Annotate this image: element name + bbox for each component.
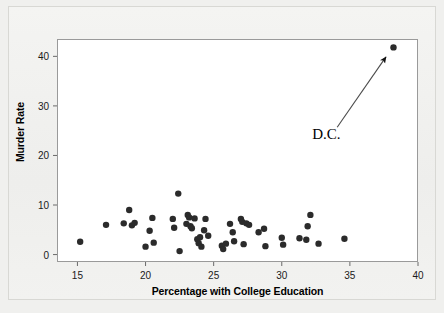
annotation-arrow-line [337,57,386,127]
data-point [261,226,267,232]
data-point [280,241,286,247]
data-point [103,222,109,228]
data-point [146,228,152,234]
data-point [296,235,302,241]
data-point [201,227,207,233]
data-point [189,225,195,231]
tick-marks [53,56,418,266]
data-point [142,243,148,249]
annotation-arrow [337,57,386,127]
x-tick-label: 35 [344,270,355,281]
data-point [198,243,204,249]
data-point [131,220,137,226]
data-point [304,223,310,229]
data-point [149,215,155,221]
data-point [126,207,132,213]
data-point [227,221,233,227]
data-point [240,241,246,247]
x-tick-label: 20 [140,270,151,281]
data-point [255,229,261,235]
data-point [279,235,285,241]
data-point [315,240,321,246]
data-point [303,237,309,243]
data-point [341,236,347,242]
y-tick-label: 0 [23,249,49,260]
data-point [186,214,192,220]
x-tick-label: 15 [72,270,83,281]
data-point [197,234,203,240]
data-point [151,239,157,245]
x-tick-label: 40 [412,270,423,281]
data-point [230,229,236,235]
data-point [390,44,396,50]
data-point [307,212,313,218]
data-point [176,248,182,254]
plot-canvas [0,0,444,313]
data-point [121,220,127,226]
data-point [246,222,252,228]
data-point [262,243,268,249]
x-axis-title: Percentage with College Education [57,285,418,297]
y-tick-label: 30 [23,100,49,111]
data-point [220,246,226,252]
data-point [170,216,176,222]
x-tick-label: 30 [276,270,287,281]
data-point [171,225,177,231]
data-point [191,215,197,221]
data-point [223,240,229,246]
y-tick-label: 40 [23,51,49,62]
annotation-label-dc: D.C. [312,126,340,143]
data-point [231,238,237,244]
y-tick-label: 20 [23,150,49,161]
x-tick-label: 25 [208,270,219,281]
data-point [77,238,83,244]
data-point [175,190,181,196]
data-point [205,233,211,239]
scatter-plot-figure: 152025303540010203040 Murder Rate Percen… [0,0,444,313]
y-axis-title: Murder Rate [14,82,26,182]
data-point-group [77,44,397,254]
data-point [202,216,208,222]
y-tick-label: 10 [23,200,49,211]
